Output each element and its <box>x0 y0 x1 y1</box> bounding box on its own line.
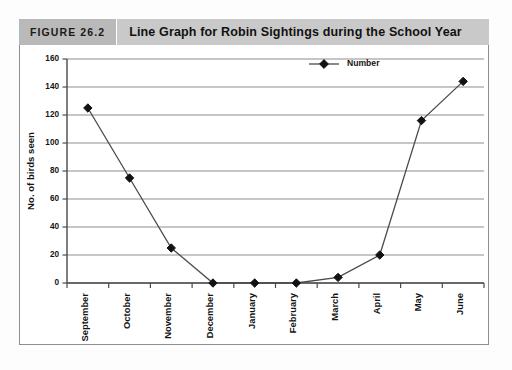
x-tick-label: September <box>79 293 90 342</box>
gridlines <box>67 59 484 283</box>
x-axis-ticks <box>67 283 484 288</box>
figure-page: FIGURE 26.2 Line Graph for Robin Sightin… <box>0 0 512 370</box>
line-chart-plot: 020406080100120140160 SeptemberOctoberNo… <box>20 45 488 343</box>
x-axis-tick-labels: SeptemberOctoberNovemberDecemberJanuaryF… <box>79 292 465 341</box>
data-point-marker <box>376 251 384 259</box>
legend: Number <box>309 58 380 68</box>
y-tick-label: 100 <box>45 138 59 147</box>
y-tick-label: 80 <box>50 166 60 175</box>
x-tick-label: May <box>412 292 423 311</box>
x-tick-label: November <box>162 293 173 339</box>
y-tick-label: 140 <box>45 82 59 91</box>
y-axis-title: No. of birds seen <box>25 132 36 210</box>
y-tick-label: 60 <box>50 194 60 203</box>
data-point-marker <box>334 273 342 281</box>
data-point-marker <box>125 174 133 182</box>
legend-label-number: Number <box>347 58 380 68</box>
figure-header: FIGURE 26.2 Line Graph for Robin Sightin… <box>19 19 489 45</box>
figure-title: Line Graph for Robin Sightings during th… <box>117 19 489 45</box>
data-point-marker <box>292 279 300 287</box>
x-tick-label: February <box>287 292 298 333</box>
y-tick-label: 120 <box>45 110 59 119</box>
y-tick-label: 20 <box>50 250 60 259</box>
data-point-marker <box>84 104 92 112</box>
x-tick-label: October <box>121 293 132 329</box>
y-tick-label: 160 <box>45 54 59 63</box>
series-markers <box>84 77 468 287</box>
legend-marker-diamond-icon <box>320 60 329 69</box>
x-tick-label: April <box>371 293 382 314</box>
x-tick-label: June <box>454 293 465 315</box>
x-tick-label: December <box>204 293 215 339</box>
y-tick-label: 0 <box>54 278 59 287</box>
chart-container: 020406080100120140160 SeptemberOctoberNo… <box>19 45 489 345</box>
y-axis-tick-labels: 020406080100120140160 <box>45 54 59 287</box>
series-line-number <box>88 81 463 283</box>
x-tick-label: January <box>246 292 257 329</box>
data-point-marker <box>250 279 258 287</box>
y-tick-label: 40 <box>50 222 60 231</box>
figure-number-tag: FIGURE 26.2 <box>19 19 117 45</box>
x-tick-label: March <box>329 293 340 321</box>
